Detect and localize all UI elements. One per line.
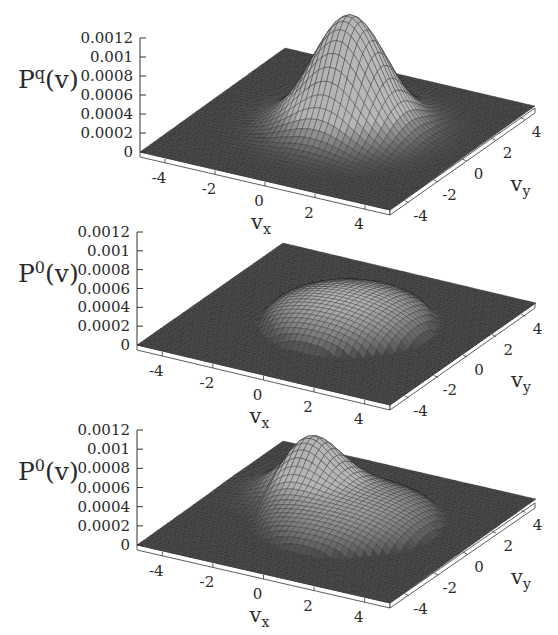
y-tick-label: -2 — [442, 186, 457, 204]
z-tick-label: 0.0008 — [78, 261, 131, 279]
y-tick-label: -2 — [442, 579, 457, 597]
z-tick-label: 0.0002 — [78, 317, 131, 335]
z-tick-label: 0 — [123, 143, 133, 161]
x-tick-label: 2 — [303, 398, 313, 416]
panel-3: 00.00020.00040.00060.00080.0010.0012P0(v… — [18, 421, 542, 630]
y-tick-label: 0 — [474, 165, 484, 183]
y-tick-label: -4 — [413, 600, 428, 618]
x-tick-label: -2 — [200, 374, 215, 392]
y-tick-label: 0 — [474, 361, 484, 379]
z-axis-label: P0(v) — [18, 456, 79, 486]
y-tick-label: 2 — [503, 341, 513, 359]
y-tick-label: 4 — [533, 320, 543, 338]
z-tick-label: 0.0012 — [81, 29, 134, 47]
z-tick-label: 0.0004 — [78, 498, 131, 516]
x-tick-label: -2 — [202, 180, 217, 198]
y-axis-label: vy — [510, 565, 531, 592]
y-axis-label: vy — [510, 368, 531, 395]
x-tick-label: -4 — [152, 169, 167, 187]
x-axis-label: vx — [250, 210, 271, 237]
x-tick-label: -4 — [149, 562, 164, 580]
x-tick-label: 0 — [253, 585, 263, 603]
x-tick-label: -2 — [200, 573, 215, 591]
x-tick-label: -4 — [149, 362, 164, 380]
z-tick-label: 0.0004 — [78, 298, 131, 316]
z-axis: 00.00020.00040.00060.00080.0010.0012 — [78, 223, 144, 354]
z-axis-label: Pq(v) — [18, 64, 79, 94]
x-tick-label: 2 — [304, 204, 314, 222]
y-axis-label: vy — [510, 172, 531, 199]
z-tick-label: 0.0006 — [78, 479, 131, 497]
panel-1: 00.00020.00040.00060.00080.0010.0012Pq(v… — [18, 15, 541, 238]
y-tick-label: 2 — [503, 144, 513, 162]
x-axis-label: vx — [249, 404, 270, 431]
y-tick-label: -4 — [413, 207, 428, 225]
surface-mesh — [137, 436, 536, 603]
z-tick-label: 0.0006 — [78, 280, 131, 298]
z-axis: 00.00020.00040.00060.00080.0010.0012 — [81, 29, 147, 161]
surface-plots-svg: 00.00020.00040.00060.00080.0010.0012Pq(v… — [0, 0, 558, 635]
z-tick-label: 0.0012 — [78, 223, 131, 241]
z-axis: 00.00020.00040.00060.00080.0010.0012 — [78, 421, 144, 554]
z-tick-label: 0.001 — [90, 48, 133, 66]
x-tick-label: 0 — [254, 192, 264, 210]
z-tick-label: 0.0004 — [81, 105, 134, 123]
z-axis-label: P0(v) — [18, 258, 79, 288]
z-tick-label: 0.001 — [87, 242, 130, 260]
x-axis-label: vx — [249, 603, 270, 630]
surface-mesh — [137, 243, 536, 405]
z-tick-label: 0.0006 — [81, 86, 134, 104]
figure: 00.00020.00040.00060.00080.0010.0012Pq(v… — [0, 0, 558, 635]
x-tick-label: 0 — [253, 386, 263, 404]
y-tick-label: -2 — [442, 381, 457, 399]
y-tick-label: 0 — [474, 558, 484, 576]
panel-2: 00.00020.00040.00060.00080.0010.0012P0(v… — [18, 223, 542, 431]
z-tick-label: 0 — [120, 336, 130, 354]
y-tick-label: 4 — [533, 516, 543, 534]
y-tick-label: 4 — [532, 123, 542, 141]
x-tick-label: 4 — [354, 410, 364, 428]
z-tick-label: 0.001 — [87, 440, 130, 458]
z-tick-label: 0.0008 — [81, 67, 134, 85]
z-tick-label: 0 — [120, 536, 130, 554]
x-tick-label: 4 — [354, 608, 364, 626]
y-tick-label: 2 — [503, 537, 513, 555]
y-tick-label: -4 — [413, 402, 428, 420]
z-tick-label: 0.0008 — [78, 459, 131, 477]
z-tick-label: 0.0002 — [78, 517, 131, 535]
z-tick-label: 0.0012 — [78, 421, 131, 439]
x-tick-label: 4 — [354, 215, 364, 233]
x-tick-label: 2 — [303, 597, 313, 615]
z-tick-label: 0.0002 — [81, 124, 134, 142]
